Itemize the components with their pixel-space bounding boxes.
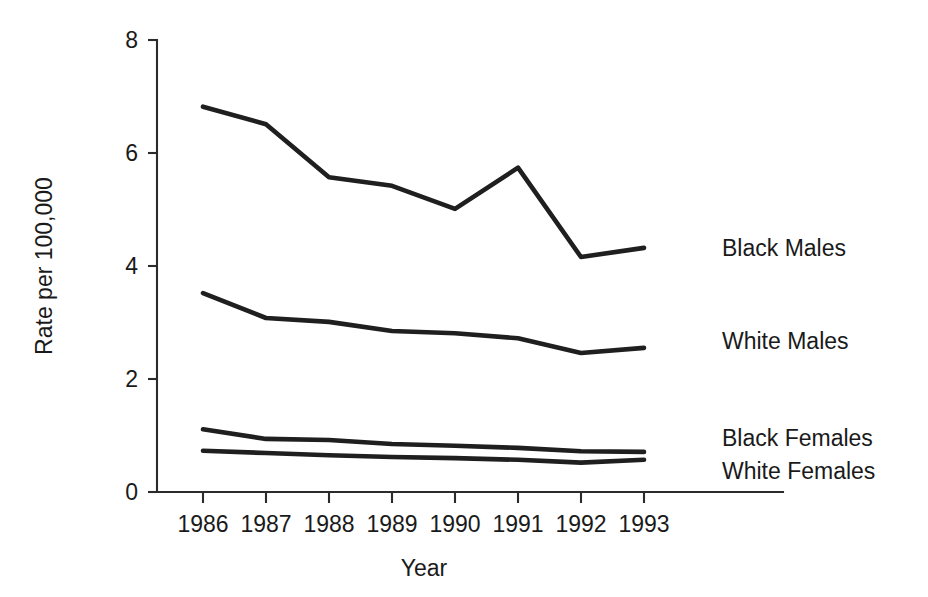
x-tick-label-1986: 1986 — [177, 511, 228, 537]
x-tick-group — [203, 492, 644, 503]
series-label-black-males: Black Males — [722, 235, 846, 261]
y-tick-label-6: 6 — [125, 140, 138, 166]
series-label-white-males: White Males — [722, 328, 849, 354]
y-tick-label-2: 2 — [125, 366, 138, 392]
line-chart-figure: 0 2 4 6 8 1986 1987 1988 1989 1990 1991 … — [0, 0, 928, 597]
axes-group — [157, 40, 783, 492]
y-axis-title: Rate per 100,000 — [31, 177, 57, 355]
x-tick-label-1992: 1992 — [555, 511, 606, 537]
x-tick-label-1987: 1987 — [240, 511, 291, 537]
x-tick-label-1988: 1988 — [303, 511, 354, 537]
chart-canvas: 0 2 4 6 8 1986 1987 1988 1989 1990 1991 … — [0, 0, 928, 597]
series-line-white-males — [203, 293, 644, 353]
x-tick-label-1991: 1991 — [492, 511, 543, 537]
series-group — [203, 107, 644, 463]
y-tick-label-0: 0 — [125, 479, 138, 505]
y-tick-label-8: 8 — [125, 27, 138, 53]
x-tick-label-1989: 1989 — [366, 511, 417, 537]
x-tick-label-1993: 1993 — [618, 511, 669, 537]
x-tick-labels: 1986 1987 1988 1989 1990 1991 1992 1993 — [177, 511, 669, 537]
y-tick-labels: 0 2 4 6 8 — [125, 27, 138, 505]
series-line-black-females — [203, 429, 644, 452]
series-label-white-females: White Females — [722, 458, 875, 484]
series-label-black-females: Black Females — [722, 425, 873, 451]
series-line-black-males — [203, 107, 644, 257]
x-axis-title: Year — [401, 555, 448, 581]
y-tick-label-4: 4 — [125, 253, 138, 279]
y-tick-group — [148, 40, 157, 492]
x-tick-label-1990: 1990 — [429, 511, 480, 537]
series-labels-group: Black Males White Males Black Females Wh… — [722, 235, 875, 484]
